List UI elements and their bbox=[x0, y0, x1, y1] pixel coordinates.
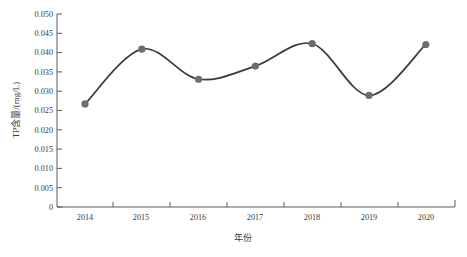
tp-content-line-chart: 0 0.005 0.010 0.015 0.020 0.025 0.030 0.… bbox=[0, 0, 467, 257]
y-tick-label: 0 bbox=[49, 203, 53, 212]
chart-container: 0 0.005 0.010 0.015 0.020 0.025 0.030 0.… bbox=[0, 0, 467, 257]
data-point-marker bbox=[195, 76, 202, 83]
y-tick-label: 0.005 bbox=[35, 184, 53, 193]
x-tick-label: 2017 bbox=[247, 213, 263, 222]
data-point-marker bbox=[365, 92, 372, 99]
data-point-marker bbox=[309, 40, 316, 47]
x-tick-label: 2018 bbox=[304, 213, 320, 222]
x-axis-title: 年份 bbox=[234, 232, 252, 243]
y-tick-label: 0.025 bbox=[35, 106, 53, 115]
y-tick-label: 0.050 bbox=[35, 10, 53, 19]
y-axis-title: TP含量/(mg/L) bbox=[10, 82, 21, 139]
x-tick-label: 2019 bbox=[361, 213, 377, 222]
y-tick-label: 0.030 bbox=[35, 87, 53, 96]
data-point-marker bbox=[252, 63, 259, 70]
y-tick-label: 0.045 bbox=[35, 29, 53, 38]
x-tick-label: 2016 bbox=[190, 213, 206, 222]
y-tick-label: 0.035 bbox=[35, 68, 53, 77]
data-point-marker bbox=[138, 46, 145, 53]
data-point-marker bbox=[81, 100, 88, 107]
x-tick-label: 2015 bbox=[133, 213, 149, 222]
y-tick-label: 0.015 bbox=[35, 145, 53, 154]
y-tick-label: 0.040 bbox=[35, 48, 53, 57]
x-tick-label: 2014 bbox=[77, 213, 93, 222]
y-tick-label: 0.020 bbox=[35, 126, 53, 135]
data-point-marker bbox=[422, 41, 429, 48]
y-tick-label: 0.010 bbox=[35, 164, 53, 173]
x-tick-label: 2020 bbox=[418, 213, 434, 222]
chart-background bbox=[0, 0, 467, 257]
